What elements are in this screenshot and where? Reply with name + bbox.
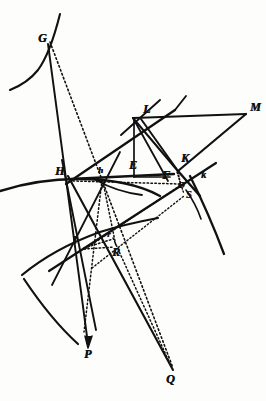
point-label-L: L [143,103,150,115]
point-label-r: r [107,230,111,239]
point-label-F: F [162,169,170,181]
G-to-Q-dotted [50,42,173,368]
arc-lower-left [24,279,78,344]
point-label-k: k [201,170,206,180]
geometric-figure: G L M E K H h F k O S I r R P Q [0,0,266,401]
point-label-Q: Q [166,373,175,385]
point-label-R: R [112,246,120,258]
point-label-G: G [38,32,47,44]
point-label-P: P [84,348,91,360]
point-label-K: K [181,152,189,164]
point-label-E: E [129,159,137,171]
point-label-H: H [55,165,64,177]
L-upper-left-ray [175,96,186,110]
r-descending-dotted [113,238,171,366]
diagram-canvas [0,0,266,401]
K-left-ray [141,119,178,171]
point-label-I: I [72,234,77,246]
point-label-S: S [186,190,192,200]
S-to-I-lower-dotted [92,196,184,268]
point-label-M: M [250,101,261,113]
h-vertical-dotted [84,180,102,332]
point-label-O: O [178,181,185,190]
point-label-h: h [98,166,103,175]
arc-right-of-K [190,176,224,254]
L-to-K-line [133,118,177,170]
